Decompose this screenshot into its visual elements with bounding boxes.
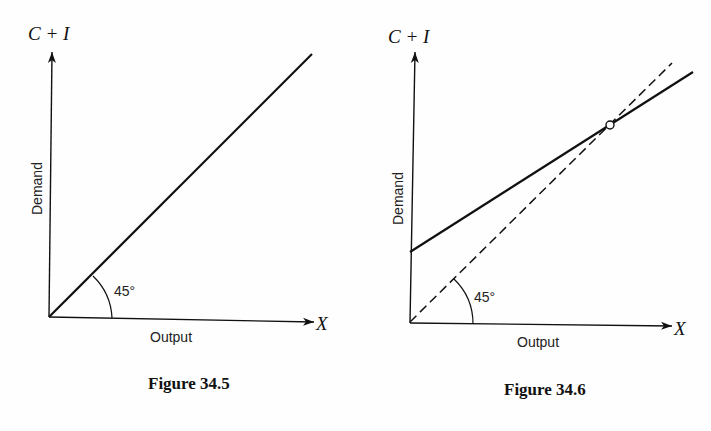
figure-caption: Figure 34.6 — [504, 380, 586, 399]
angle-label: 45° — [114, 283, 135, 299]
equilibrium-point-marker — [606, 121, 614, 129]
x-axis-label: X — [315, 313, 329, 334]
angle-arc — [454, 279, 473, 324]
figure-34-6: C + I Demand X Output 45° Figure 34.6 — [388, 26, 693, 399]
y-axis-label: C + I — [28, 23, 71, 44]
y-axis-title: Demand — [390, 172, 406, 225]
diagram-canvas: C + I Demand X Output 45° Figure 34.5 C … — [0, 0, 711, 431]
x-axis — [410, 323, 672, 326]
angle-arc — [93, 276, 112, 318]
y-axis-label: C + I — [388, 26, 431, 47]
angle-label: 45° — [474, 289, 495, 305]
y-axis — [410, 52, 415, 323]
figure-caption: Figure 34.5 — [148, 374, 230, 393]
x-axis-label: X — [673, 318, 687, 339]
x-axis-title: Output — [517, 334, 559, 350]
demand-schedule-line — [410, 72, 693, 252]
x-axis-title: Output — [150, 329, 192, 345]
45-degree-line — [49, 54, 312, 317]
y-axis — [49, 52, 52, 317]
figure-34-5: C + I Demand X Output 45° Figure 34.5 — [28, 23, 329, 393]
y-axis-title: Demand — [29, 162, 45, 215]
x-axis — [49, 317, 314, 322]
page: C + I Demand X Output 45° Figure 34.5 C … — [0, 0, 711, 431]
45-degree-dashed-line — [410, 63, 672, 322]
